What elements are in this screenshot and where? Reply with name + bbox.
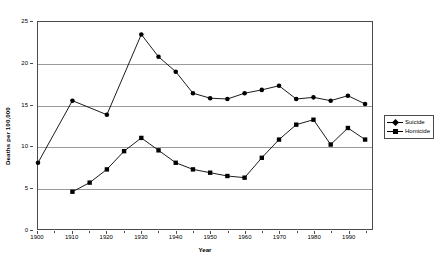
legend-item-homicide[interactable]: Homicide [387,127,430,136]
series-homicide [70,118,367,194]
y-tick-mark [30,230,33,231]
data-point-square [174,161,178,165]
data-point-diamond [225,97,230,102]
data-point-square [156,148,160,152]
x-tick-mark [141,231,142,234]
x-tick-mark [176,231,177,234]
legend-item-suicide[interactable]: Suicide [387,118,430,127]
data-point-square [294,122,298,126]
data-point-square [311,118,315,122]
x-tick-mark [279,231,280,234]
data-point-square [139,136,143,140]
legend-label: Homicide [403,128,430,135]
data-point-square [70,190,74,194]
x-tick-label: 1960 [238,234,251,241]
data-point-diamond [156,54,161,59]
series-line [72,120,365,192]
data-point-square [105,167,109,171]
y-tick-mark [30,63,33,64]
x-tick-mark [37,231,38,234]
x-tick-mark-minor [54,231,55,233]
data-point-square [363,137,367,141]
data-point-diamond [242,91,247,96]
x-axis-tick-labels: 1900191019201930194019501960197019801990 [37,231,373,245]
x-tick-mark [314,231,315,234]
data-point-square [225,174,229,178]
y-tick-label: 20 [21,59,28,66]
data-point-diamond [36,160,41,165]
x-tick-mark [72,231,73,234]
plot-area [37,21,373,230]
data-point-square [208,171,212,175]
x-tick-label: 1980 [307,234,320,241]
y-tick-label: 5 [25,185,28,192]
x-tick-label: 1900 [30,234,43,241]
legend-marker-icon [387,128,403,136]
x-tick-mark-minor [297,231,298,233]
x-tick-mark-minor [193,231,194,233]
y-tick-label: 15 [21,101,28,108]
x-tick-mark-minor [262,231,263,233]
series-suicide [36,32,368,165]
x-tick-mark [245,231,246,234]
x-axis-title: Year [37,246,373,253]
y-tick-label: 0 [25,227,28,234]
x-tick-label: 1940 [169,234,182,241]
data-point-square [260,156,264,160]
chart-legend: SuicideHomicide [384,115,434,139]
x-tick-mark [106,231,107,234]
data-point-diamond [346,93,351,98]
data-point-square [87,180,91,184]
data-point-diamond [328,98,333,103]
y-axis-tick-labels: 0510152025 [0,21,33,230]
data-point-diamond [277,83,282,88]
data-point-diamond [294,97,299,102]
x-tick-mark-minor [89,231,90,233]
y-tick-label: 25 [21,18,28,25]
y-tick-mark [30,21,33,22]
data-point-square [346,126,350,130]
data-point-diamond [363,102,368,107]
x-tick-mark-minor [228,231,229,233]
chart-container: Deaths per 100,000 0510152025 1900191019… [0,0,439,273]
data-point-diamond [208,96,213,101]
data-point-diamond [173,69,178,74]
x-tick-label: 1950 [204,234,217,241]
y-tick-label: 10 [21,143,28,150]
data-point-diamond [311,95,316,100]
x-tick-mark-minor [366,231,367,233]
data-point-diamond [191,91,196,96]
x-tick-mark [210,231,211,234]
x-tick-label: 1920 [100,234,113,241]
legend-label: Suicide [403,119,425,126]
x-tick-label: 1990 [342,234,355,241]
data-point-square [328,142,332,146]
data-point-square [277,137,281,141]
y-tick-mark [30,188,33,189]
data-point-diamond [70,98,75,103]
data-point-square [191,167,195,171]
y-tick-mark [30,105,33,106]
data-point-square [242,175,246,179]
y-tick-mark [30,146,33,147]
x-tick-mark-minor [124,231,125,233]
series-line [38,34,365,162]
x-tick-mark-minor [158,231,159,233]
legend-marker-icon [387,119,403,127]
data-point-diamond [139,32,144,37]
x-tick-label: 1910 [65,234,78,241]
data-point-diamond [260,88,265,93]
x-tick-label: 1930 [134,234,147,241]
data-point-square [122,149,126,153]
series-layer [38,22,372,229]
data-point-diamond [105,112,110,117]
x-tick-mark [349,231,350,234]
x-tick-label: 1970 [273,234,286,241]
x-tick-mark-minor [331,231,332,233]
